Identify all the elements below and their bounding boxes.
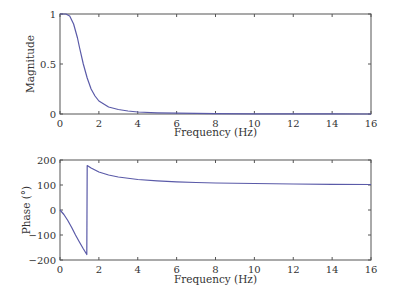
y-tick-label: 200	[37, 155, 56, 166]
x-tick-label: 0	[57, 264, 63, 275]
x-tick-label: 12	[287, 264, 300, 275]
x-tick-label: 2	[96, 118, 102, 129]
x-tick-label: 4	[135, 264, 141, 275]
y-tick-label: −200	[29, 255, 56, 266]
phase-x-axis-label: Frequency (Hz)	[174, 273, 257, 285]
x-tick-label: 0	[57, 118, 63, 129]
x-tick-label: 14	[326, 118, 339, 129]
x-tick-label: 16	[365, 118, 378, 129]
y-tick-label: 0	[50, 109, 56, 120]
magnitude-x-axis-label: Frequency (Hz)	[174, 126, 257, 138]
magnitude-y-axis-label: Magnitude	[24, 35, 36, 93]
x-tick-label: 4	[135, 118, 141, 129]
phase-plot: 0246810121416−200−1000100200Frequency (H…	[20, 155, 377, 286]
x-tick-label: 2	[96, 264, 102, 275]
phase-y-axis-label: Phase (°)	[20, 186, 32, 234]
y-tick-label: 0.5	[40, 59, 56, 70]
x-tick-label: 14	[326, 264, 339, 275]
y-tick-label: 1	[50, 9, 56, 20]
bode-plot-figure: 024681012141600.51Frequency (Hz)Magnitud…	[0, 0, 394, 302]
magnitude-axes-box	[60, 14, 371, 114]
magnitude-plot: 024681012141600.51Frequency (Hz)Magnitud…	[24, 9, 377, 139]
x-tick-label: 12	[287, 118, 300, 129]
y-tick-label: −100	[29, 230, 56, 241]
phase-curve	[60, 166, 371, 255]
x-tick-label: 16	[365, 264, 378, 275]
y-tick-label: 0	[50, 205, 56, 216]
magnitude-curve	[60, 14, 371, 114]
y-tick-label: 100	[37, 180, 56, 191]
